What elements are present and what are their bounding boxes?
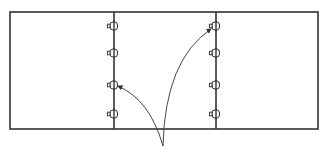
hinge-icon [108, 21, 118, 31]
hinge-icon [210, 80, 220, 90]
hinge-icon [108, 48, 118, 58]
hinge-icon [210, 109, 220, 119]
hinge-icon [210, 48, 220, 58]
panel-dividers [114, 12, 216, 129]
hinge-icon [108, 109, 118, 119]
frame-outline [10, 12, 318, 129]
hinge-icon [108, 80, 118, 90]
folding-screen-diagram [0, 0, 328, 155]
arrow-to-divider-1 [118, 86, 163, 146]
outer-frame [10, 12, 318, 129]
